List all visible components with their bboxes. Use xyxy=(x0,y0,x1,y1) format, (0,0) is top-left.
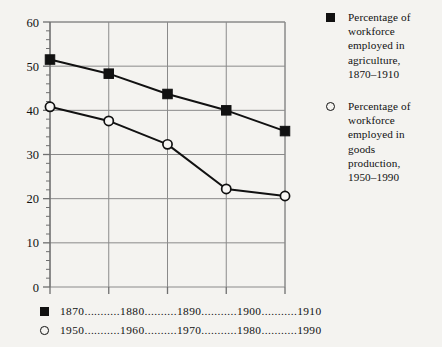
chart-legend: Percentage of workforce employed in agri… xyxy=(326,10,442,198)
x-axis-row-goods-production: 1950...........1960..........1970.......… xyxy=(38,321,308,340)
filled-square-icon xyxy=(326,13,335,22)
legend-label-goods-production: Percentage of workforce employed in good… xyxy=(348,99,442,184)
x-axis-row-agriculture: 1870...........1880..........1890.......… xyxy=(38,302,308,321)
x-axis-years-goods-production: 1950...........1960..........1970.......… xyxy=(60,324,322,336)
open-circle-icon xyxy=(326,102,335,111)
y-axis-tick-label: 0 xyxy=(33,281,39,295)
legend-entry-goods-production: Percentage of workforce employed in good… xyxy=(326,99,442,184)
y-axis-tick-label: 40 xyxy=(27,104,40,118)
open-circle-icon xyxy=(40,326,49,335)
legend-label-agriculture: Percentage of workforce employed in agri… xyxy=(348,10,442,81)
y-axis-tick-label: 50 xyxy=(27,60,40,74)
plot-area: 0102030405060 xyxy=(0,0,300,300)
data-point-marker xyxy=(280,191,289,200)
y-axis-tick-label: 10 xyxy=(27,236,40,250)
y-axis-tick-label: 60 xyxy=(27,16,40,30)
data-point-marker xyxy=(104,116,113,125)
data-point-marker xyxy=(163,140,172,149)
y-axis-tick-label: 30 xyxy=(27,148,40,162)
y-axis-tick-label: 20 xyxy=(27,192,40,206)
filled-square-icon xyxy=(40,307,49,316)
line-chart-svg: 0102030405060 xyxy=(0,0,300,300)
data-point-marker xyxy=(45,102,54,111)
x-axis-label-rows: 1870...........1880..........1890.......… xyxy=(38,302,308,340)
data-point-marker xyxy=(163,89,173,99)
data-point-marker xyxy=(45,55,55,65)
data-point-marker xyxy=(222,106,232,116)
chart-figure: 0102030405060 Percentage of workforce em… xyxy=(0,0,442,347)
x-axis-years-agriculture: 1870...........1880..........1890.......… xyxy=(60,305,322,317)
data-point-marker xyxy=(222,184,231,193)
data-point-marker xyxy=(104,69,114,79)
data-point-marker xyxy=(280,126,290,136)
legend-entry-agriculture: Percentage of workforce employed in agri… xyxy=(326,10,442,81)
